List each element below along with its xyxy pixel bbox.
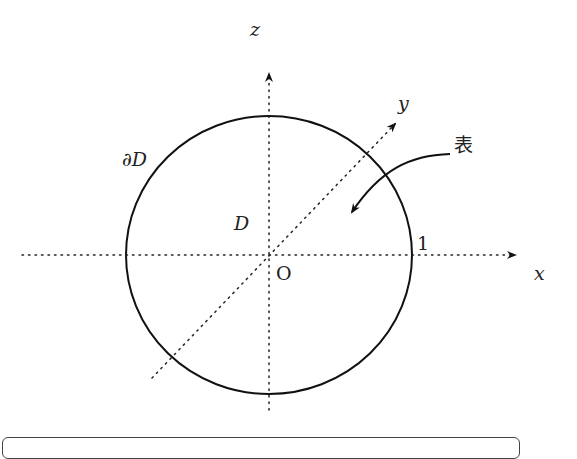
surface-label: 表 — [454, 130, 473, 157]
y-axis-label: y — [398, 92, 409, 114]
origin-label: O — [276, 262, 292, 284]
z-axis-label: z — [250, 18, 260, 40]
x-axis-label: x — [534, 262, 545, 284]
boundary-label: ∂D — [122, 148, 147, 170]
y-axis — [152, 124, 395, 378]
bottom-frame — [2, 437, 520, 459]
radius-label: 1 — [417, 232, 429, 254]
region-label: D — [234, 212, 249, 234]
